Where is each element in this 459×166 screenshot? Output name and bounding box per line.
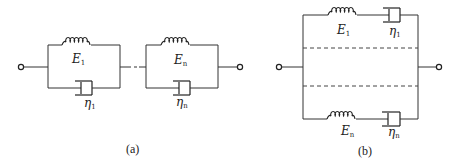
maxwell-branch-n: En ηn (303, 112, 418, 140)
left-terminal-icon (18, 64, 23, 69)
spring-label-en: En (340, 124, 355, 139)
spring-icon (161, 38, 189, 45)
panel-a: E1 η1 En ηn (a) (18, 38, 242, 156)
panel-b-caption: (b) (358, 144, 372, 158)
dashpot-label-eta1: η1 (84, 96, 96, 111)
panel-b: E1 η1 En ηn (b) (276, 8, 441, 158)
kelvin-element-n: En ηn (146, 38, 218, 110)
spring-label-e1: E1 (336, 23, 350, 38)
dashpot-label-eta1: η1 (389, 24, 401, 39)
spring-icon (327, 112, 355, 119)
right-terminal-icon (237, 64, 242, 69)
dashpot-label-etan: ηn (388, 125, 400, 140)
rheological-model-figure: E1 η1 En ηn (a) (0, 0, 459, 166)
maxwell-branch-1: E1 η1 (303, 8, 418, 39)
spring-label-en: En (173, 53, 188, 68)
right-terminal-icon (436, 64, 441, 69)
spring-icon (62, 38, 90, 45)
panel-a-caption: (a) (126, 142, 139, 156)
dashpot-label-etan: ηn (176, 95, 188, 110)
kelvin-element-1: E1 η1 (48, 38, 120, 111)
spring-icon (328, 8, 356, 15)
left-terminal-icon (276, 64, 281, 69)
spring-label-e1: E1 (71, 52, 85, 67)
